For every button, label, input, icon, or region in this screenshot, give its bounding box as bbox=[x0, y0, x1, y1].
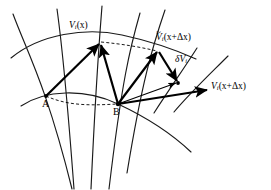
figure-canvas: Vi(x) ~Vi(x+Δx) δVi Vi(x+Δx) A B bbox=[0, 0, 271, 190]
label-vector-at-x-plus-dx: Vi(x+Δx) bbox=[211, 82, 246, 92]
dashed-guide-lower bbox=[46, 96, 118, 105]
label-vector-at-x-argument: (x) bbox=[77, 20, 88, 30]
vector-arrow-v-at-x-plus-dx bbox=[118, 90, 207, 104]
label-variation: δVi bbox=[175, 55, 187, 65]
label-transported-vector: ~Vi(x+Δx) bbox=[156, 33, 191, 43]
vector-arrow-transported bbox=[118, 52, 157, 104]
label-vector-at-x: Vi(x) bbox=[69, 21, 88, 31]
parallel-transport-diagram bbox=[0, 0, 271, 190]
label-variation-subscript: i bbox=[185, 57, 187, 64]
label-point-a: A bbox=[42, 99, 49, 109]
dashed-guide-upper bbox=[101, 42, 157, 51]
point-marker-junction bbox=[176, 81, 180, 85]
label-point-b: B bbox=[113, 107, 120, 117]
label-variation-symbol: δV bbox=[175, 54, 185, 64]
tilde-accent-icon: ~ bbox=[156, 28, 161, 37]
vector-arrow-b-to-v-at-x bbox=[101, 45, 118, 104]
label-transported-vector-accented: ~V bbox=[156, 33, 162, 43]
label-vector-at-x-plus-dx-argument: (x+Δx) bbox=[219, 81, 246, 91]
vector-arrow-v-at-x bbox=[46, 44, 99, 96]
label-transported-vector-argument: (x+Δx) bbox=[164, 32, 191, 42]
